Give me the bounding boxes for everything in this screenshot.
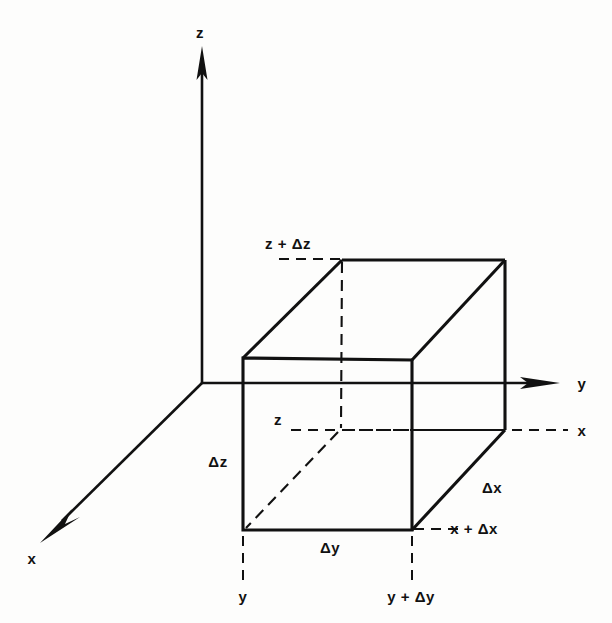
- coordinate-label-x-plus-delta-x: x + Δx: [450, 521, 498, 536]
- x-axis-arrowhead: [40, 509, 80, 543]
- hidden-edge-vertical: [341, 262, 342, 428]
- cube-top-left-diagonal: [243, 260, 342, 358]
- dimension-label-delta-z: Δz: [208, 454, 227, 469]
- coordinate-label-y-plus-delta-y: y + Δy: [387, 589, 435, 604]
- hidden-edge-diagonal: [246, 432, 338, 528]
- axis-label-x: x: [28, 551, 37, 566]
- coordinate-label-z: z: [274, 412, 282, 427]
- x-axis-line: [62, 383, 202, 521]
- dimension-label-delta-y: Δy: [320, 540, 340, 555]
- diagram-vector-layer: [0, 0, 612, 623]
- figure-canvas: z y x Δz Δy Δx z + Δz z x x + Δx y y + Δ…: [0, 0, 612, 623]
- coordinate-label-y: y: [239, 589, 248, 604]
- coordinate-label-z-plus-delta-z: z + Δz: [265, 236, 311, 251]
- axis-label-z: z: [196, 25, 204, 40]
- cube-top-right-diagonal: [412, 260, 505, 360]
- axis-label-y: y: [578, 376, 587, 391]
- dimension-label-delta-x: Δx: [482, 480, 502, 495]
- axis-lines-group: [40, 46, 560, 543]
- coordinate-label-x-dashed: x: [578, 423, 587, 438]
